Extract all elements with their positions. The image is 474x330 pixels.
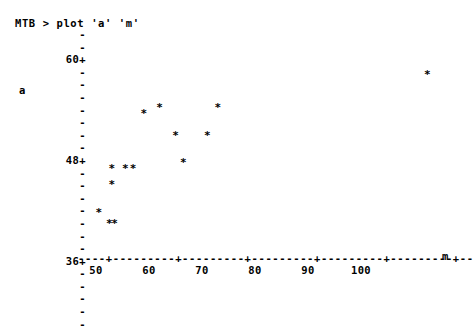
data-point-marker: * bbox=[108, 163, 116, 171]
x-axis-tick-label: 60 bbox=[129, 264, 169, 276]
x-axis-tick-label: 70 bbox=[182, 264, 222, 276]
data-point-marker: * bbox=[121, 163, 129, 171]
data-point-marker: * bbox=[203, 130, 211, 138]
x-axis-tick-label: 100 bbox=[341, 264, 381, 276]
data-point-marker: * bbox=[214, 102, 222, 110]
data-point-marker: * bbox=[95, 207, 103, 215]
y-axis-tick-mark: - bbox=[0, 305, 86, 318]
x-axis-tick-labels: 5060708090100 bbox=[0, 264, 462, 278]
data-point-marker: * bbox=[111, 218, 119, 226]
data-point-marker: * bbox=[179, 157, 187, 165]
data-point-marker: * bbox=[129, 163, 137, 171]
x-axis-rule: ----+---------+---------+---------+-----… bbox=[78, 252, 474, 264]
x-axis-label: m bbox=[442, 250, 448, 262]
x-axis-tick-label: 50 bbox=[76, 264, 116, 276]
data-point-marker: * bbox=[108, 179, 116, 187]
data-point-marker: * bbox=[172, 130, 180, 138]
x-axis-tick-label: 90 bbox=[288, 264, 328, 276]
data-point-marker: * bbox=[140, 108, 148, 116]
y-axis-tick-mark: - bbox=[0, 292, 86, 305]
y-axis-tick-mark: - bbox=[0, 318, 86, 330]
x-axis-tick-label: 80 bbox=[235, 264, 275, 276]
data-point-marker: * bbox=[423, 69, 431, 77]
data-point-marker: * bbox=[156, 102, 164, 110]
